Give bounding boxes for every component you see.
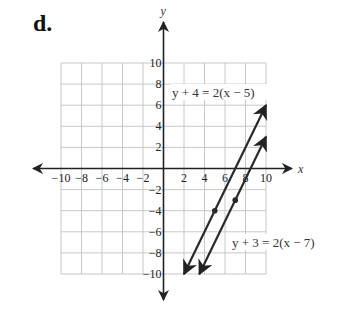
y-axis-label: y [160,4,167,18]
x-tick-label: −8 [75,171,88,185]
x-tick-label: −4 [116,171,129,185]
y-tick-label: −8 [149,246,162,260]
point-marker-1 [212,208,218,214]
y-tick-label: −6 [149,225,162,239]
y-tick-label: −10 [143,267,162,281]
x-tick-label: −6 [96,171,109,185]
y-tick-label: 4 [156,119,162,133]
x-tick-label: −2 [137,171,150,185]
y-tick-label: −2 [149,183,162,197]
point-marker-2 [232,197,238,203]
x-tick-label: −10 [52,171,71,185]
equation-label-1: y + 4 = 2(x − 5) [172,85,255,100]
x-tick-label: 4 [202,171,208,185]
x-tick-label: 2 [181,171,187,185]
x-tick-label: 10 [260,171,272,185]
y-tick-label: 10 [150,56,162,70]
x-tick-label: 6 [222,171,228,185]
x-axis-label: x [297,162,304,176]
y-tick-label: −4 [149,204,162,218]
y-tick-label: 6 [156,98,162,112]
y-tick-label: 2 [156,140,162,154]
y-tick-label: 8 [156,77,162,91]
line-2 [199,137,266,274]
coordinate-plane: xy−10−8−6−4−2246810108642−2−4−6−8−10y + … [0,0,344,316]
equation-label-2: y + 3 = 2(x − 7) [232,235,315,250]
